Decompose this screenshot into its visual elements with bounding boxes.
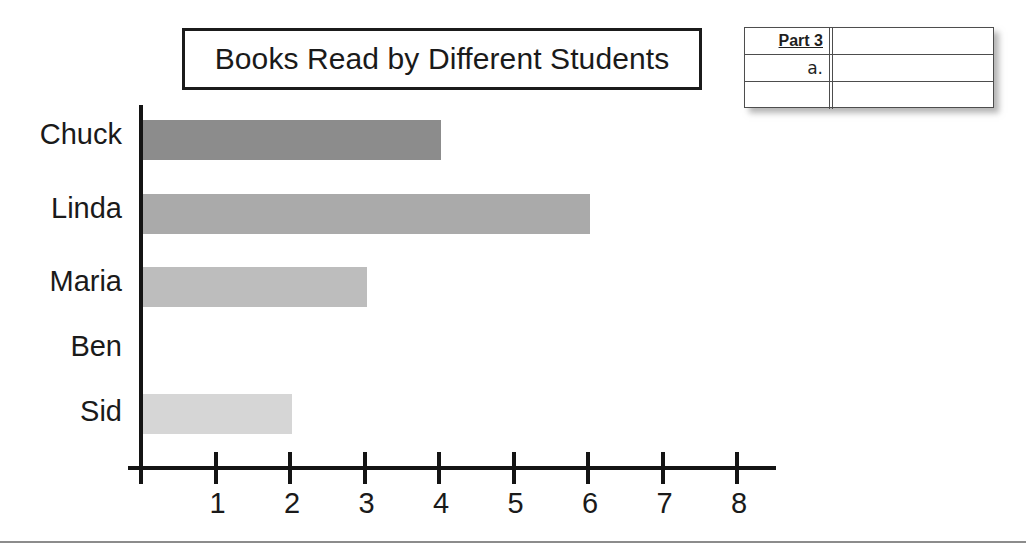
bar-sid — [143, 394, 292, 434]
x-tick-label-6: 6 — [570, 487, 610, 520]
x-tick-1 — [214, 452, 218, 484]
x-tick-label-2: 2 — [272, 487, 312, 520]
answer-table: Part 3a. — [744, 27, 994, 108]
x-tick-2 — [288, 452, 292, 484]
x-tick-label-5: 5 — [496, 487, 536, 520]
x-tick-6 — [586, 452, 590, 484]
bar-chart: ChuckLindaMariaBenSid 12345678 — [0, 0, 800, 520]
x-tick-label-3: 3 — [347, 487, 387, 520]
x-tick-label-8: 8 — [719, 487, 759, 520]
x-tick-4 — [437, 452, 441, 484]
table-row-label — [745, 82, 829, 109]
category-label-ben: Ben — [0, 330, 122, 363]
x-tick-3 — [363, 452, 367, 484]
category-label-linda: Linda — [0, 192, 122, 225]
x-tick-label-7: 7 — [645, 487, 685, 520]
x-tick-7 — [661, 452, 665, 484]
bar-chuck — [143, 120, 441, 160]
x-tick-0 — [139, 452, 143, 484]
table-row: a. — [745, 55, 993, 82]
x-axis-line — [128, 466, 776, 470]
table-row-label: a. — [745, 55, 829, 81]
x-tick-5 — [512, 452, 516, 484]
bar-linda — [143, 194, 590, 234]
category-label-sid: Sid — [0, 395, 122, 428]
x-tick-label-1: 1 — [198, 487, 238, 520]
worksheet-page: Books Read by Different Students ChuckLi… — [0, 0, 1026, 551]
table-row-label: Part 3 — [745, 28, 829, 54]
page-divider — [0, 541, 1026, 543]
answer-cell[interactable] — [833, 55, 993, 81]
x-tick-label-4: 4 — [421, 487, 461, 520]
answer-cell[interactable] — [833, 28, 993, 54]
category-label-chuck: Chuck — [0, 118, 122, 151]
category-label-maria: Maria — [0, 265, 122, 298]
table-row: Part 3 — [745, 28, 993, 55]
bar-maria — [143, 267, 367, 307]
x-tick-8 — [735, 452, 739, 484]
table-row — [745, 82, 993, 109]
answer-cell[interactable] — [833, 82, 993, 109]
